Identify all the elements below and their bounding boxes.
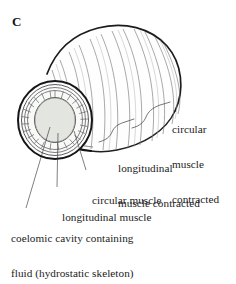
- label-coelomic-cavity-line1: coelomic cavity containing: [11, 233, 134, 245]
- label-coelomic-cavity: coelomic cavity containing fluid (hydros…: [11, 210, 134, 284]
- coelomic-cavity: [35, 98, 75, 142]
- panel-label: C: [12, 14, 22, 30]
- label-circular-muscle-contracted-line1: circular: [172, 124, 219, 136]
- cross-section: [18, 81, 92, 159]
- label-coelomic-cavity-line2: fluid (hydrostatic skeleton): [11, 268, 134, 280]
